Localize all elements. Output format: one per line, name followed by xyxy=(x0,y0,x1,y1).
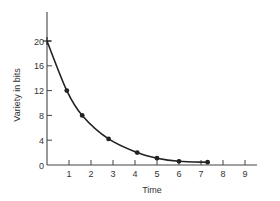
data-point xyxy=(64,88,69,93)
decay-chart: 048121620 123456789 Variety in bits Time xyxy=(0,0,280,201)
x-tick-label: 5 xyxy=(154,169,159,179)
data-point xyxy=(177,159,182,164)
y-tick-label: 20 xyxy=(34,37,44,47)
y-tick-label: 12 xyxy=(34,86,44,96)
x-tick-label: 6 xyxy=(176,169,181,179)
x-tick-label: 9 xyxy=(242,169,247,179)
y-tick-label: 8 xyxy=(39,111,44,121)
x-tick-label: 3 xyxy=(110,169,115,179)
y-tick-label: 4 xyxy=(39,136,44,146)
data-point xyxy=(106,137,111,142)
data-point xyxy=(135,150,140,155)
data-point xyxy=(80,113,85,118)
x-tick-label: 2 xyxy=(88,169,93,179)
y-tick-label: 0 xyxy=(39,161,44,171)
data-point xyxy=(155,156,160,161)
data-curve xyxy=(47,41,208,162)
y-axis-label: Variety in bits xyxy=(12,68,22,122)
x-axis-label: Time xyxy=(142,185,162,195)
y-tick-label: 16 xyxy=(34,61,44,71)
x-tick-label: 1 xyxy=(66,169,71,179)
y-axis-ticks: 048121620 xyxy=(34,37,52,171)
x-axis-ticks: 123456789 xyxy=(66,160,247,179)
data-markers xyxy=(43,37,210,165)
x-tick-label: 4 xyxy=(132,169,137,179)
x-tick-label: 8 xyxy=(220,169,225,179)
axes xyxy=(47,12,257,165)
x-tick-label: 7 xyxy=(198,169,203,179)
data-point xyxy=(205,160,210,165)
